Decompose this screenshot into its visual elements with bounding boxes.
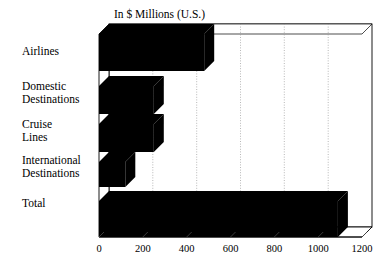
- category-label-international-line2: Destinations: [22, 167, 80, 179]
- category-label-cruise-line1: Cruise: [22, 118, 52, 130]
- bar-group-airlines: [99, 24, 214, 71]
- bar-top-face-cruise: [99, 114, 164, 124]
- category-label-international-line1: International: [22, 154, 81, 166]
- bar-group-total: [99, 191, 348, 237]
- category-label-domestic-line2: Destinations: [22, 93, 80, 105]
- bar-top-face-domestic: [99, 76, 164, 86]
- tick-label-0: 0: [96, 243, 101, 254]
- tick-label-800: 800: [266, 243, 282, 254]
- chart-container: Airlines Domestic Destinations Cruise Li…: [0, 0, 387, 257]
- chart-title: In $ Millions (U.S.): [114, 8, 205, 21]
- bar-front-face-airlines: [99, 34, 204, 71]
- tick-label-1200: 1200: [352, 243, 373, 254]
- tick-label-1000: 1000: [308, 243, 329, 254]
- bar-front-face-total: [99, 201, 338, 237]
- bar-front-face-cruise: [99, 124, 154, 152]
- category-axis-labels: Airlines Domestic Destinations Cruise Li…: [22, 45, 81, 209]
- category-label-airlines: Airlines: [22, 45, 60, 57]
- bar-top-face-total: [99, 191, 348, 201]
- bar-group-domestic-destinations: [99, 76, 164, 114]
- bar-group-cruise-lines: [99, 114, 164, 152]
- category-label-total: Total: [22, 197, 45, 209]
- value-axis-tick-labels: 0 200 400 600 800 1000 1200: [96, 243, 372, 254]
- bar-front-face-international: [99, 162, 125, 187]
- tick-label-600: 600: [223, 243, 239, 254]
- tick-label-400: 400: [179, 243, 195, 254]
- category-label-domestic-line1: Domestic: [22, 80, 66, 92]
- bar-top-face-airlines: [99, 24, 214, 34]
- category-label-cruise-line2: Lines: [22, 131, 48, 143]
- bar-front-face-domestic: [99, 86, 154, 114]
- bar-group-international-destinations: [99, 152, 135, 187]
- tick-label-200: 200: [135, 243, 151, 254]
- bar-chart-svg: Airlines Domestic Destinations Cruise Li…: [0, 0, 387, 257]
